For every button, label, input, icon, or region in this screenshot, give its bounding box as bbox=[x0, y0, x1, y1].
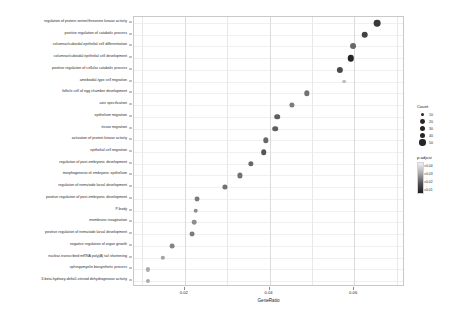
padjust-legend-title: p.adjust bbox=[417, 155, 462, 160]
y-axis-tick bbox=[129, 233, 132, 234]
colorbar-tick-label: 0.03 bbox=[426, 172, 433, 176]
grid-line-horizontal bbox=[134, 187, 403, 188]
y-axis-tick bbox=[129, 92, 132, 93]
grid-line-horizontal bbox=[134, 58, 403, 59]
grid-line-horizontal bbox=[134, 152, 403, 153]
grid-line-horizontal bbox=[134, 211, 403, 212]
y-axis-tick-label: columnar/cuboidal epithelial cell develo… bbox=[54, 55, 127, 59]
y-axis-tick bbox=[129, 104, 132, 105]
y-axis-tick bbox=[129, 80, 132, 81]
grid-line-vertical-minor bbox=[312, 17, 313, 285]
y-axis-tick-label: positive regulation of nematode larval d… bbox=[45, 231, 127, 235]
grid-line-horizontal bbox=[134, 82, 403, 83]
y-axis-tick-label: morphogenesis of embryonic epithelium bbox=[63, 173, 127, 177]
data-point bbox=[274, 114, 280, 120]
y-axis-tick-label: P-body bbox=[115, 208, 127, 212]
x-axis-tick-label: 0.06 bbox=[349, 291, 357, 295]
y-axis-tick bbox=[129, 268, 132, 269]
x-axis-title: GeneRatio bbox=[133, 298, 404, 303]
y-axis-tick-label: positive regulation of catabolic process bbox=[64, 32, 127, 36]
y-axis-tick bbox=[129, 244, 132, 245]
y-axis-tick-label: epithelial cell migration bbox=[90, 149, 127, 153]
y-axis-tick-label: activation of protein kinase activity bbox=[72, 137, 127, 141]
data-point bbox=[337, 67, 343, 73]
grid-line-horizontal bbox=[134, 129, 403, 130]
grid-line-vertical bbox=[354, 17, 355, 285]
count-legend-label: 50 bbox=[429, 141, 433, 145]
data-point bbox=[145, 279, 149, 283]
plot-panel bbox=[133, 16, 404, 286]
colorbar-tick-label: 0.04 bbox=[426, 164, 433, 168]
y-axis-tick-label: regulation of protein serine/threonine k… bbox=[44, 20, 127, 24]
grid-line-horizontal bbox=[134, 23, 403, 24]
grid-line-horizontal bbox=[134, 117, 403, 118]
data-point bbox=[192, 220, 197, 225]
y-axis-tick bbox=[129, 174, 132, 175]
data-point bbox=[348, 55, 354, 61]
y-axis-tick bbox=[129, 256, 132, 257]
grid-line-horizontal bbox=[134, 199, 403, 200]
y-axis-tick bbox=[129, 280, 132, 281]
y-axis-tick-label: regulation of post-embryonic development bbox=[59, 161, 127, 165]
data-point bbox=[273, 126, 279, 132]
y-axis-tick-label: columnar/cuboidal epithelial cell differ… bbox=[53, 44, 127, 48]
colorbar-tick-label: 0.02 bbox=[426, 180, 433, 184]
count-legend-entry: 30 bbox=[417, 125, 462, 132]
data-point bbox=[237, 173, 242, 178]
y-axis-tick-label: sphingomyelin biosynthetic process bbox=[70, 267, 127, 271]
data-point bbox=[374, 19, 381, 26]
y-axis-tick bbox=[129, 45, 132, 46]
y-axis-tick bbox=[129, 127, 132, 128]
data-point bbox=[350, 43, 356, 49]
grid-line-vertical-minor bbox=[397, 17, 398, 285]
x-axis-tick-label: 0.02 bbox=[180, 291, 188, 295]
padjust-color-legend: p.adjust 0.040.030.020.01 bbox=[417, 155, 462, 194]
colorbar-tick-label: 0.01 bbox=[426, 188, 433, 192]
y-axis-tick bbox=[129, 57, 132, 58]
count-legend-dot bbox=[417, 113, 428, 117]
grid-line-horizontal bbox=[134, 222, 403, 223]
legends: Count 1020304050 p.adjust 0.040.030.020.… bbox=[417, 104, 462, 194]
grid-line-horizontal bbox=[134, 175, 403, 176]
y-axis-labels: regulation of protein serine/threonine k… bbox=[0, 16, 131, 286]
y-axis-tick bbox=[129, 197, 132, 198]
data-point bbox=[194, 197, 199, 202]
count-legend-entry: 50 bbox=[417, 139, 462, 146]
count-legend-dot bbox=[417, 126, 428, 131]
chart-root: regulation of protein serine/threonine k… bbox=[0, 0, 462, 319]
y-axis-tick-label: nuclear-transcribed mRNA poly(A) tail sh… bbox=[48, 255, 127, 259]
y-axis-tick-label: negative regulation of organ growth bbox=[70, 243, 127, 247]
count-legend-entry: 20 bbox=[417, 118, 462, 125]
grid-line-horizontal bbox=[134, 258, 403, 259]
y-axis-tick-label: positive regulation of cellular cataboli… bbox=[52, 67, 127, 71]
y-axis-tick bbox=[129, 151, 132, 152]
y-axis-tick bbox=[129, 115, 132, 116]
count-legend-label: 40 bbox=[429, 134, 433, 138]
y-axis-tick-label: 3-beta-hydroxy-delta5-steroid dehydrogen… bbox=[41, 278, 127, 282]
grid-line-horizontal bbox=[134, 164, 403, 165]
count-legend-dot bbox=[417, 139, 428, 145]
data-point bbox=[170, 244, 175, 249]
padjust-colorbar bbox=[417, 162, 424, 194]
grid-line-horizontal bbox=[134, 234, 403, 235]
grid-line-vertical-minor bbox=[227, 17, 228, 285]
y-axis-tick-label: axis specification bbox=[99, 102, 127, 106]
y-axis-tick bbox=[129, 68, 132, 69]
x-axis-tick-label: 0.04 bbox=[264, 291, 272, 295]
y-axis-tick bbox=[129, 162, 132, 163]
padjust-colorbar-ticks: 0.040.030.020.01 bbox=[424, 162, 448, 194]
y-axis-tick bbox=[129, 33, 132, 34]
grid-line-vertical bbox=[185, 17, 186, 285]
y-axis-tick-label: tissue migration bbox=[102, 126, 128, 130]
data-point bbox=[161, 255, 165, 259]
count-legend-entry: 10 bbox=[417, 111, 462, 118]
grid-line-horizontal bbox=[134, 93, 403, 94]
data-point bbox=[190, 232, 195, 237]
grid-line-horizontal bbox=[134, 269, 403, 270]
data-point bbox=[193, 208, 198, 213]
data-point bbox=[145, 267, 149, 271]
y-axis-tick bbox=[129, 186, 132, 187]
grid-line-horizontal bbox=[134, 140, 403, 141]
grid-line-vertical-minor bbox=[142, 17, 143, 285]
grid-line-vertical bbox=[270, 17, 271, 285]
